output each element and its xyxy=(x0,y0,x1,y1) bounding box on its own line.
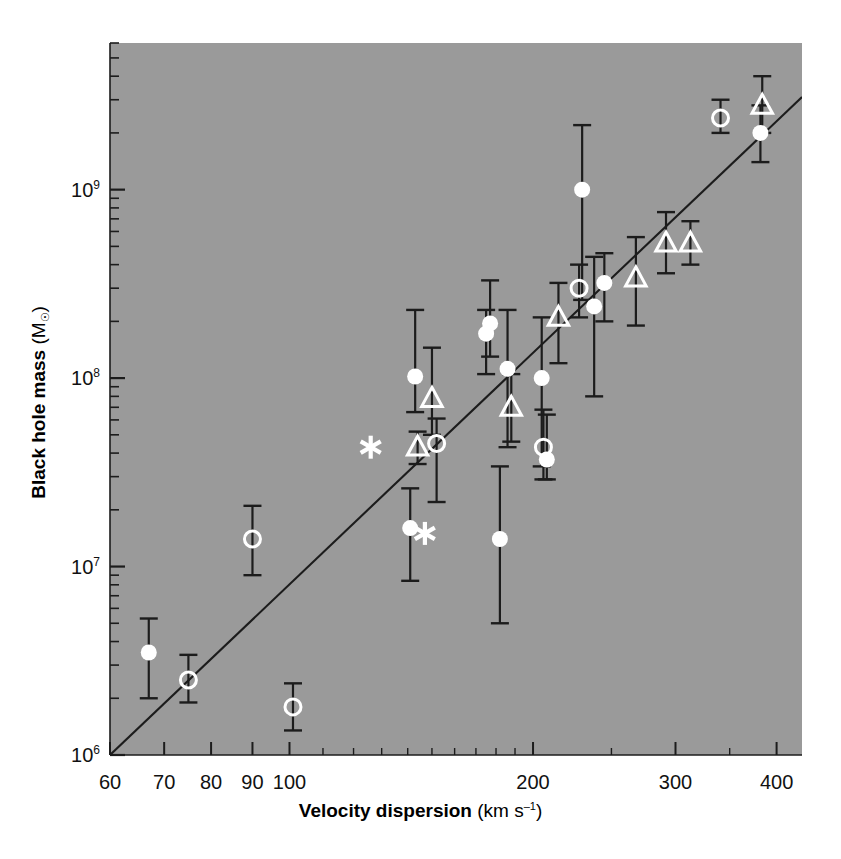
y-tick-mantissa: 10 xyxy=(71,555,93,577)
marker-filled-circle xyxy=(596,275,612,291)
y-axis-title-unit-close: ) xyxy=(28,306,49,312)
x-axis-title-unit-close: ) xyxy=(536,800,542,821)
y-tick-exponent: 9 xyxy=(93,178,100,192)
x-tick-label: 100 xyxy=(273,771,306,794)
y-axis-title: Black hole mass (M☉) xyxy=(28,192,53,612)
marker-filled-circle xyxy=(586,298,602,314)
marker-filled-circle xyxy=(492,531,508,547)
axis-lines-and-ticks xyxy=(110,43,802,755)
x-axis-title: Velocity dispersion (km s–1) xyxy=(0,800,841,822)
y-tick-mantissa: 10 xyxy=(71,367,93,389)
x-axis-title-unit-exponent: –1 xyxy=(524,800,536,812)
y-tick-exponent: 6 xyxy=(93,743,100,757)
y-tick-label: 107 xyxy=(48,555,100,579)
x-tick-label: 60 xyxy=(99,771,121,794)
marker-filled-circle xyxy=(500,361,516,377)
fit-line-segment xyxy=(110,97,802,755)
marker-filled-circle xyxy=(407,368,423,384)
y-axis-title-unit-open: (M xyxy=(28,322,49,344)
marker-filled-circle xyxy=(482,315,498,331)
figure-container: 60708090100200300400 106107108109 Veloci… xyxy=(0,0,841,859)
x-axis-title-main: Velocity dispersion xyxy=(299,800,472,821)
y-tick-label: 108 xyxy=(48,366,100,390)
y-tick-label: 106 xyxy=(48,743,100,767)
marker-filled-circle xyxy=(752,125,768,141)
x-tick-label: 90 xyxy=(241,771,263,794)
error-bars xyxy=(140,76,771,730)
marker-filled-circle xyxy=(574,182,590,198)
y-axis-title-main: Black hole mass xyxy=(28,350,49,499)
marker-filled-circle xyxy=(534,370,550,386)
x-tick-label: 400 xyxy=(760,771,793,794)
fit-line xyxy=(110,97,802,755)
x-tick-label: 200 xyxy=(516,771,549,794)
x-tick-label: 70 xyxy=(153,771,175,794)
data-markers xyxy=(141,94,773,714)
y-tick-exponent: 8 xyxy=(93,366,100,380)
x-tick-label: 80 xyxy=(200,771,222,794)
x-axis-title-unit-open: (km s xyxy=(477,800,523,821)
y-tick-exponent: 7 xyxy=(93,555,100,569)
sun-symbol-icon: ☉ xyxy=(39,312,51,322)
chart-svg xyxy=(0,0,841,859)
x-tick-label: 300 xyxy=(659,771,692,794)
y-tick-mantissa: 10 xyxy=(71,178,93,200)
marker-filled-circle xyxy=(141,644,157,660)
y-tick-mantissa: 10 xyxy=(71,744,93,766)
y-tick-label: 109 xyxy=(48,178,100,202)
